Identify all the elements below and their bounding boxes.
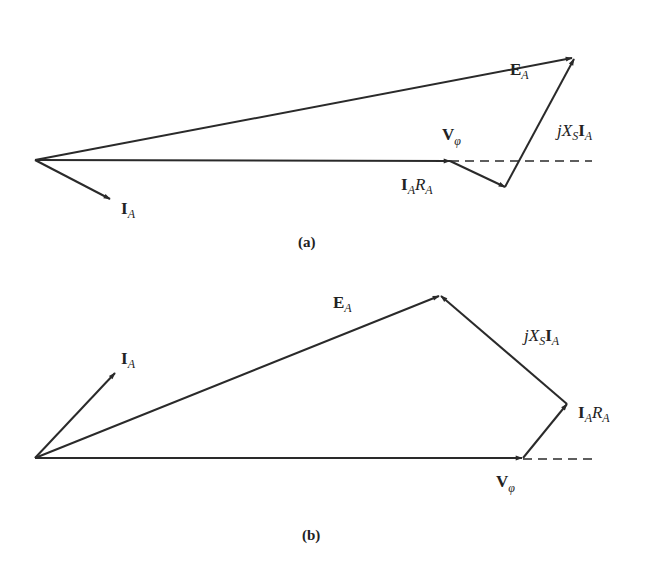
i-a-phasor-b bbox=[35, 373, 115, 458]
label-e-a-b: EA bbox=[333, 293, 352, 315]
ia-ra-phasor-a bbox=[450, 161, 505, 187]
diagram-b: EA IA jXSIA IARA Vφ (b) bbox=[35, 293, 610, 544]
phasor-diagram-canvas: EA Vφ IARA jXSIA IA (a) EA IA jXSIA IARA… bbox=[0, 0, 659, 564]
label-jxs-ia-a: jXSIA bbox=[555, 121, 593, 143]
label-ia-ra-b: IARA bbox=[578, 403, 610, 425]
diagram-a: EA Vφ IARA jXSIA IA (a) bbox=[35, 58, 593, 251]
label-jxs-ia-b: jXSIA bbox=[522, 326, 560, 348]
label-i-a-b: IA bbox=[121, 349, 136, 371]
caption-a: (a) bbox=[298, 234, 316, 251]
label-v-phi-a: Vφ bbox=[442, 125, 461, 148]
caption-b: (b) bbox=[302, 527, 320, 544]
label-e-a-a: EA bbox=[510, 60, 529, 82]
i-a-phasor-a bbox=[35, 160, 110, 199]
v-phi-phasor-a bbox=[35, 160, 450, 161]
jxs-ia-phasor-b bbox=[441, 296, 567, 404]
e-a-phasor-a bbox=[35, 58, 572, 160]
ia-ra-phasor-b bbox=[523, 404, 567, 458]
label-v-phi-b: Vφ bbox=[496, 472, 515, 495]
label-ia-ra-a: IARA bbox=[401, 175, 433, 197]
label-i-a-a: IA bbox=[121, 199, 136, 221]
e-a-phasor-b bbox=[35, 296, 439, 458]
